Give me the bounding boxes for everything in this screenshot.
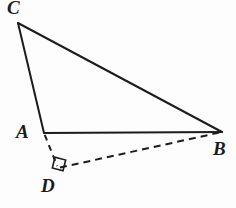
- segment-AD: [45, 135, 58, 166]
- vertex-label-a: A: [16, 122, 29, 141]
- vertex-label-b: B: [213, 139, 226, 158]
- vertex-label-d: D: [41, 176, 55, 195]
- segment-CB: [18, 23, 222, 132]
- segment-AB: [44, 132, 222, 133]
- right-angle-marker-icon: [52, 157, 65, 170]
- vertex-label-c: C: [7, 0, 20, 17]
- segment-DB: [60, 132, 220, 167]
- geometry-canvas: [0, 0, 236, 208]
- geometry-figure: C A B D: [0, 0, 236, 208]
- segment-CA: [18, 23, 44, 133]
